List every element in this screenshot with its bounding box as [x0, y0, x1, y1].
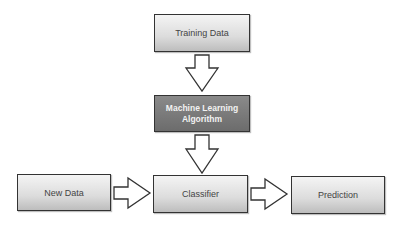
arrow-down-icon: [184, 54, 220, 92]
arrow-right-icon: [250, 178, 288, 210]
ml-algorithm-label-line2: Algorithm: [182, 114, 222, 125]
ml-algorithm-label-line1: Machine Learning: [166, 103, 238, 114]
new-data-label: New Data: [44, 188, 84, 198]
prediction-node: Prediction: [291, 176, 385, 214]
arrow-right-icon: [113, 177, 151, 209]
training-data-label: Training Data: [175, 28, 229, 38]
classifier-label: Classifier: [182, 189, 219, 199]
arrow-down-icon: [184, 134, 220, 174]
classifier-node: Classifier: [153, 175, 248, 213]
training-data-node: Training Data: [154, 14, 250, 52]
prediction-label: Prediction: [318, 190, 358, 200]
new-data-node: New Data: [17, 174, 111, 211]
ml-algorithm-node: Machine Learning Algorithm: [154, 95, 250, 132]
